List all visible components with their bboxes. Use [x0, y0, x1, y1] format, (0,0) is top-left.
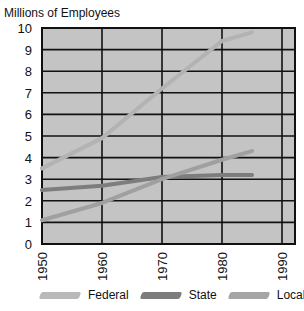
legend: Federal State Local	[40, 288, 304, 302]
y-tick-label: 3	[25, 172, 32, 187]
line-chart: 01234567891019501960197019801990	[0, 0, 304, 311]
y-tick-label: 2	[25, 194, 32, 209]
legend-item-state: State	[141, 288, 217, 302]
x-tick-label: 1970	[155, 252, 170, 281]
x-tick-label: 1990	[275, 252, 290, 281]
y-tick-label: 1	[25, 215, 32, 230]
y-tick-label: 7	[25, 86, 32, 101]
y-tick-label: 4	[25, 151, 32, 166]
y-tick-label: 5	[25, 129, 32, 144]
x-tick-label: 1950	[35, 252, 50, 281]
legend-item-local: Local	[229, 288, 304, 302]
federal-swatch	[39, 292, 82, 299]
legend-item-federal: Federal	[40, 288, 129, 302]
y-tick-label: 0	[25, 237, 32, 252]
y-tick-label: 9	[25, 43, 32, 58]
local-swatch	[227, 292, 270, 299]
legend-label-state: State	[189, 288, 217, 302]
state-swatch	[139, 292, 182, 299]
y-tick-label: 8	[25, 64, 32, 79]
legend-label-local: Local	[277, 288, 304, 302]
x-tick-label: 1960	[95, 252, 110, 281]
legend-label-federal: Federal	[88, 288, 129, 302]
y-tick-label: 10	[18, 21, 32, 36]
x-tick-label: 1980	[215, 252, 230, 281]
y-tick-label: 6	[25, 107, 32, 122]
